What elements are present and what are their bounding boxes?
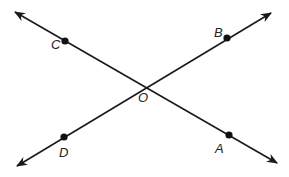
label-D: D — [59, 145, 68, 160]
labels: CBDAO — [51, 25, 224, 160]
lines — [15, 12, 277, 166]
label-A: A — [214, 141, 224, 156]
label-C: C — [51, 37, 61, 52]
diagram-canvas: CBDAO — [0, 0, 289, 177]
point-A — [225, 131, 232, 138]
point-C — [61, 37, 68, 44]
label-B: B — [214, 25, 223, 40]
intersecting-lines-diagram: CBDAO — [0, 0, 289, 177]
point-B — [223, 34, 230, 41]
point-D — [60, 133, 67, 140]
label-O: O — [138, 90, 148, 105]
